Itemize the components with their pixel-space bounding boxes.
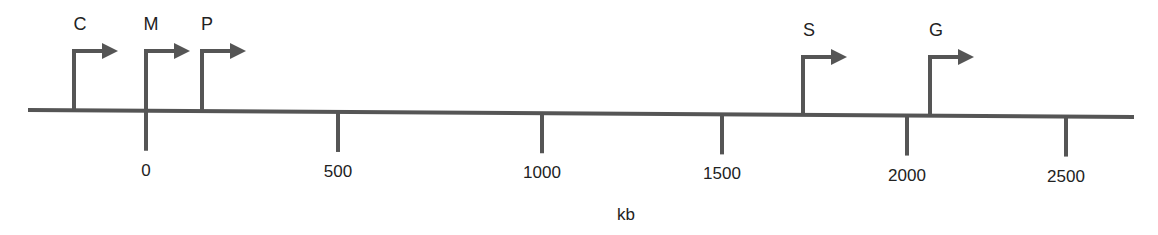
map-canvas [0,0,1158,235]
tick-label: 2500 [1047,167,1085,187]
tick-label: 1500 [703,164,741,184]
tick-label: 0 [141,161,150,181]
promoter-label: M [144,14,159,35]
promoter-arrow-icon [930,49,974,116]
promoter-arrow-icon [146,43,190,111]
tick-label: 500 [324,162,352,182]
genomic-map: 05001000150020002500 CMPSG kb [0,0,1158,235]
promoter-arrow-icon [202,43,246,111]
axis-unit-label: kb [617,205,635,225]
promoter-label: S [803,20,815,41]
tick-label: 2000 [888,166,926,186]
promoter-arrows [74,43,974,116]
tick-label: 1000 [523,163,561,183]
chromosome-axis [28,110,1134,117]
promoter-label: G [929,20,943,41]
promoter-label: P [201,14,213,35]
promoter-arrow-icon [803,49,847,115]
promoter-arrow-icon [74,43,118,110]
promoter-label: C [74,14,87,35]
